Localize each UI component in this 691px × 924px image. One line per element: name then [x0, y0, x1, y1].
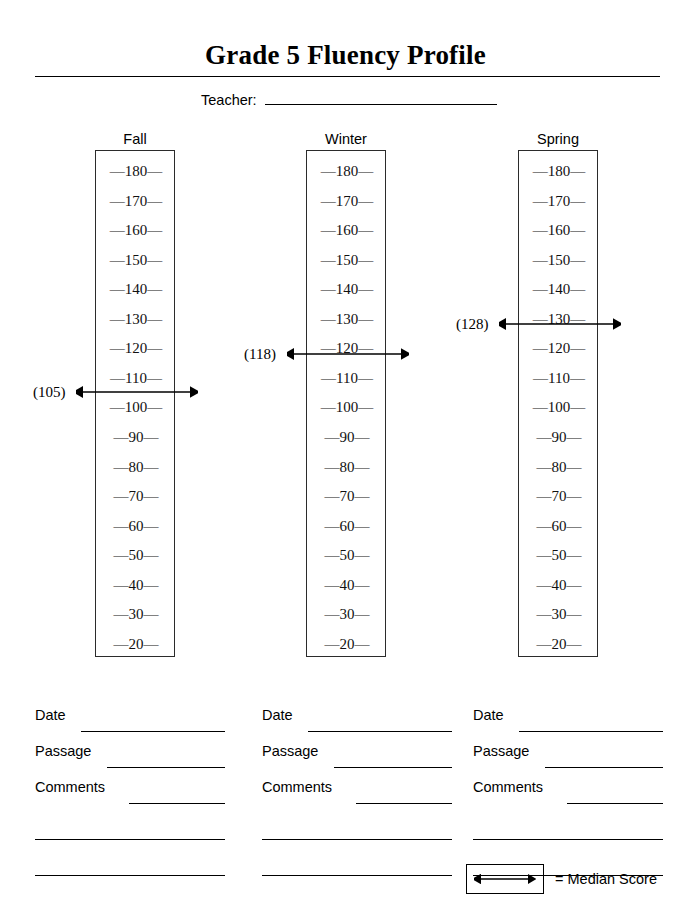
- form-label-date: Date: [473, 707, 504, 723]
- form-label-comments: Comments: [262, 779, 332, 795]
- scale-tick: —50—: [519, 548, 599, 563]
- form-field-date: Date: [262, 706, 452, 742]
- scale-tick: —120—: [96, 341, 176, 356]
- scale-box-fall[interactable]: —180——170——160——150——140——130——120——110—…: [95, 150, 175, 657]
- scale-tick: —40—: [307, 578, 387, 593]
- scale-tick: —70—: [519, 489, 599, 504]
- scale-tick: —170—: [96, 194, 176, 209]
- scale-tick: —50—: [96, 548, 176, 563]
- form-input-line-comments[interactable]: [129, 803, 225, 804]
- season-header-spring: Spring: [498, 131, 618, 147]
- form-input-line-date[interactable]: [81, 731, 225, 732]
- scale-tick: —70—: [96, 489, 176, 504]
- scale-tick: —70—: [307, 489, 387, 504]
- form-blank-row: [35, 850, 225, 886]
- form-blank-line[interactable]: [473, 839, 663, 840]
- form-field-comments: Comments: [262, 778, 452, 814]
- season-header-winter: Winter: [286, 131, 406, 147]
- scale-tick: —80—: [96, 460, 176, 475]
- form-label-passage: Passage: [473, 743, 529, 759]
- scale-tick: —170—: [307, 194, 387, 209]
- scale-tick: —30—: [96, 607, 176, 622]
- scale-tick: —110—: [307, 371, 387, 386]
- scale-tick: —170—: [519, 194, 599, 209]
- scale-tick: —130—: [307, 312, 387, 327]
- double-headed-arrow-icon: [474, 872, 536, 886]
- form-input-line-passage[interactable]: [545, 767, 663, 768]
- scale-tick: —140—: [96, 282, 176, 297]
- scale-tick: —60—: [519, 519, 599, 534]
- form-input-line-passage[interactable]: [334, 767, 452, 768]
- form-input-line-passage[interactable]: [107, 767, 225, 768]
- scale-tick: —100—: [519, 400, 599, 415]
- median-arrow-icon: [287, 344, 409, 364]
- teacher-input-line[interactable]: [265, 91, 497, 105]
- scale-tick: —160—: [519, 223, 599, 238]
- form-blank-row: [262, 850, 452, 886]
- form-column-spring: DatePassageComments: [473, 706, 663, 886]
- title-divider: [35, 76, 660, 77]
- form-blank-row: [35, 814, 225, 850]
- scale-tick: —140—: [519, 282, 599, 297]
- legend-symbol-box: [466, 864, 544, 894]
- page-title: Grade 5 Fluency Profile: [0, 40, 691, 71]
- median-marker-spring[interactable]: (128): [456, 314, 622, 334]
- scale-tick: —110—: [519, 371, 599, 386]
- median-score-label: (118): [244, 345, 276, 363]
- scale-tick: —50—: [307, 548, 387, 563]
- form-blank-line[interactable]: [262, 839, 452, 840]
- scale-tick: —160—: [96, 223, 176, 238]
- scale-tick: —180—: [519, 164, 599, 179]
- scale-tick: —80—: [307, 460, 387, 475]
- scale-tick: —140—: [307, 282, 387, 297]
- form-blank-line[interactable]: [35, 875, 225, 876]
- scale-tick: —180—: [96, 164, 176, 179]
- scale-box-winter[interactable]: —180——170——160——150——140——130——120——110—…: [306, 150, 386, 657]
- form-blank-row: [262, 814, 452, 850]
- teacher-field-row: Teacher:: [201, 91, 497, 108]
- median-arrow-icon: [76, 382, 198, 402]
- form-blank-line[interactable]: [262, 875, 452, 876]
- legend: = Median Score: [466, 864, 657, 894]
- form-column-fall: DatePassageComments: [35, 706, 225, 886]
- form-input-line-date[interactable]: [308, 731, 452, 732]
- form-label-comments: Comments: [473, 779, 543, 795]
- scale-tick: —30—: [307, 607, 387, 622]
- median-marker-fall[interactable]: (105): [33, 382, 199, 402]
- form-field-date: Date: [473, 706, 663, 742]
- form-field-passage: Passage: [35, 742, 225, 778]
- scale-tick: —20—: [519, 637, 599, 652]
- form-label-passage: Passage: [35, 743, 91, 759]
- scale-tick: —60—: [96, 519, 176, 534]
- form-blank-line[interactable]: [35, 839, 225, 840]
- scale-tick: —100—: [307, 400, 387, 415]
- median-score-label: (105): [33, 383, 66, 401]
- scale-box-spring[interactable]: —180——170——160——150——140——130——120——110—…: [518, 150, 598, 657]
- scale-tick: —90—: [96, 430, 176, 445]
- form-label-passage: Passage: [262, 743, 318, 759]
- scale-tick: —20—: [96, 637, 176, 652]
- season-header-fall: Fall: [75, 131, 195, 147]
- legend-label: = Median Score: [555, 871, 657, 887]
- scale-tick: —60—: [307, 519, 387, 534]
- scale-tick: —20—: [307, 637, 387, 652]
- form-column-winter: DatePassageComments: [262, 706, 452, 886]
- scale-tick: —180—: [307, 164, 387, 179]
- form-label-date: Date: [35, 707, 66, 723]
- median-arrow-icon: [499, 314, 621, 334]
- scale-tick: —80—: [519, 460, 599, 475]
- scale-tick: —100—: [96, 400, 176, 415]
- scale-tick: —30—: [519, 607, 599, 622]
- scale-tick: —150—: [519, 253, 599, 268]
- median-marker-winter[interactable]: (118): [244, 344, 410, 364]
- form-input-line-comments[interactable]: [567, 803, 663, 804]
- form-field-passage: Passage: [262, 742, 452, 778]
- form-field-comments: Comments: [35, 778, 225, 814]
- scale-tick: —90—: [519, 430, 599, 445]
- form-input-line-comments[interactable]: [356, 803, 452, 804]
- form-field-passage: Passage: [473, 742, 663, 778]
- scale-tick: —130—: [96, 312, 176, 327]
- form-input-line-date[interactable]: [519, 731, 663, 732]
- form-field-comments: Comments: [473, 778, 663, 814]
- form-blank-row: [473, 814, 663, 850]
